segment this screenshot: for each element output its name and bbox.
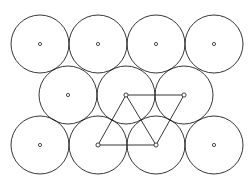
circle-center-dot: [66, 93, 69, 96]
unit-cell-vertex-bottom-left: [96, 143, 100, 147]
unit-cell-vertex-top-left: [124, 93, 128, 97]
circle-center-dot: [96, 42, 99, 45]
circle-center-dot: [38, 143, 41, 146]
circle-center-dot: [212, 42, 215, 45]
lattice-figure: [0, 0, 251, 191]
lattice-svg: [0, 0, 251, 191]
circle-center-dot: [38, 42, 41, 45]
circle-center-dot: [212, 143, 215, 146]
unit-cell-vertex-bottom-right: [154, 143, 158, 147]
circle-center-dot: [154, 42, 157, 45]
unit-cell-vertex-top-right: [182, 93, 186, 97]
